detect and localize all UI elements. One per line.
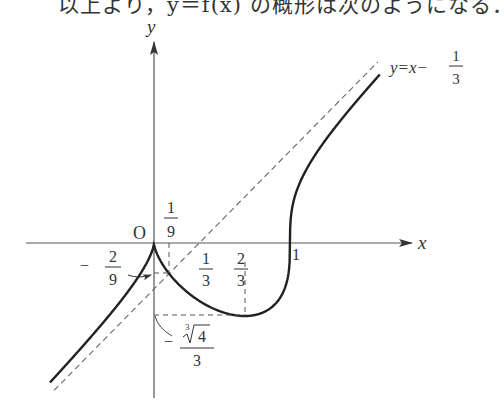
svg-text:3: 3 bbox=[452, 71, 460, 87]
tick-label-2-3: 2 3 bbox=[234, 250, 248, 289]
svg-text:9: 9 bbox=[109, 271, 117, 288]
svg-text:−: − bbox=[80, 257, 89, 274]
tick-label-1: 1 bbox=[292, 246, 300, 263]
asymptote-line bbox=[54, 62, 378, 390]
x-axis-label: x bbox=[417, 232, 427, 253]
guide-lines bbox=[154, 243, 245, 315]
svg-text:−: − bbox=[164, 333, 173, 350]
svg-text:3: 3 bbox=[237, 272, 245, 289]
function-curve bbox=[50, 75, 380, 383]
tick-label-1-9: 1 9 bbox=[164, 199, 178, 240]
svg-text:1: 1 bbox=[452, 48, 460, 64]
tick-label-minus-cbrt4-3: − 3 4 3 bbox=[155, 316, 214, 369]
svg-text:2: 2 bbox=[109, 248, 117, 265]
y-axis-label: y bbox=[145, 16, 156, 37]
svg-text:y=x−: y=x− bbox=[388, 58, 428, 77]
svg-text:3: 3 bbox=[193, 352, 201, 369]
svg-text:1: 1 bbox=[202, 250, 210, 267]
tick-label-minus-2-9: − 2 9 bbox=[80, 248, 151, 288]
svg-text:4: 4 bbox=[198, 328, 206, 345]
tick-label-1-3: 1 3 bbox=[199, 250, 213, 289]
svg-text:2: 2 bbox=[237, 250, 245, 267]
svg-text:3: 3 bbox=[202, 272, 210, 289]
svg-text:9: 9 bbox=[167, 223, 175, 240]
svg-text:1: 1 bbox=[167, 199, 175, 216]
origin-label: O bbox=[133, 223, 146, 243]
asymptote-label: y=x− 1 3 bbox=[388, 48, 463, 87]
svg-text:3: 3 bbox=[185, 322, 190, 332]
